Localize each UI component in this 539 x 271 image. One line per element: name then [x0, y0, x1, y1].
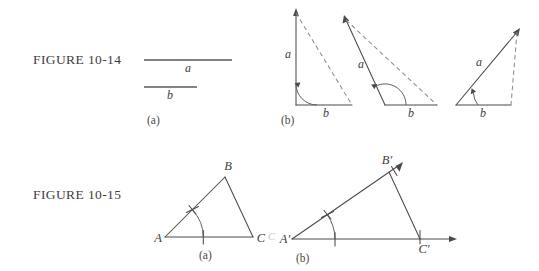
- triangle-abc-prime-vertex-b-label: B′: [382, 153, 393, 167]
- figure-10-14-panel-b: a b a b: [281, 8, 520, 127]
- stray-mark-c: C: [268, 230, 276, 242]
- right-triangle-label-b: b: [323, 106, 329, 120]
- right-triangle-angle-arrowhead: [295, 82, 301, 87]
- panel-caption-b: (b): [281, 114, 295, 127]
- right-triangle-ray-arrowhead: [293, 8, 299, 16]
- ray-ac-prime-arrowhead: [449, 236, 457, 242]
- figure-10-15-panel-a: A B C (a): [153, 159, 266, 262]
- acute-triangle-label-a: a: [476, 55, 482, 69]
- panel-caption-15b: (b): [296, 252, 310, 265]
- triangle-abc-side-ab: [165, 177, 225, 237]
- triangle-abc-side-bc: [225, 177, 253, 237]
- triangle-abc-vertex-c-label: C: [257, 231, 266, 245]
- acute-triangle-hypotenuse: [511, 32, 517, 105]
- right-triangle-angle-arc: [296, 84, 317, 105]
- triangle-abc-prime-side-bc: [389, 172, 420, 239]
- obtuse-triangle-label-b: b: [408, 106, 414, 120]
- panel-caption-a: (a): [147, 114, 160, 127]
- triangle-abc-prime-tick-ab-2: [324, 211, 331, 220]
- triangle-abc-prime-vertex-a-label: A′: [279, 232, 291, 246]
- acute-triangle-side-a: [456, 32, 517, 105]
- obtuse-triangle: a b: [343, 15, 438, 120]
- acute-triangle-angle-arc: [473, 92, 478, 105]
- segment-b-label: b: [167, 88, 173, 102]
- triangle-abc-prime-vertex-c-label: C′: [418, 242, 429, 256]
- figures-canvas: a b (a) a b: [0, 0, 539, 271]
- segment-a-label: a: [185, 61, 191, 75]
- triangle-abc-prime-ray-ab: [292, 166, 398, 239]
- figure-10-14-panel-a: a b (a): [144, 60, 232, 127]
- figure-page: FIGURE 10-14 FIGURE 10-15 a b (a): [0, 0, 539, 271]
- triangle-abc-vertex-b-label: B: [224, 159, 232, 173]
- panel-caption-15a: (a): [199, 249, 212, 262]
- acute-triangle-label-b: b: [480, 106, 486, 120]
- triangle-abc-vertex-a-label: A: [153, 231, 162, 245]
- right-triangle: a b: [285, 8, 352, 120]
- ray-ab-prime-arrowhead: [396, 162, 404, 172]
- obtuse-triangle-label-a: a: [358, 57, 364, 71]
- right-triangle-hypotenuse: [296, 13, 352, 105]
- figure-10-15-panel-b: C A′ B′ C′ (b): [268, 153, 457, 265]
- right-triangle-label-a: a: [285, 47, 291, 61]
- acute-triangle: a b: [456, 28, 520, 120]
- triangle-abc-compass-arc: [192, 210, 203, 237]
- obtuse-triangle-side-a: [346, 20, 385, 105]
